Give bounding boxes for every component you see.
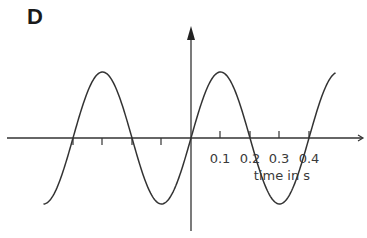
x-axis-label: time in s bbox=[254, 168, 310, 183]
y-axis-arrow-icon bbox=[187, 26, 195, 40]
sine-wave-graph: 0.1 0.2 0.3 0.4 time in s bbox=[0, 0, 367, 238]
tick-label-0.3: 0.3 bbox=[269, 151, 290, 166]
tick-label-0.1: 0.1 bbox=[210, 151, 231, 166]
